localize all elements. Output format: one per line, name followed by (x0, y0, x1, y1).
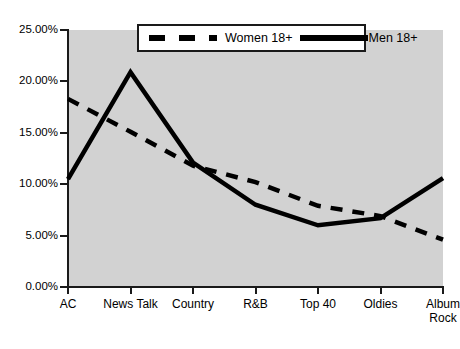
x-tick-mark (255, 287, 257, 294)
legend-label-men: Men 18+ (369, 32, 418, 45)
y-tick-label: 20.00% (2, 75, 58, 86)
legend-entry-women[interactable]: Women 18+ (139, 26, 293, 50)
y-tick-mark (60, 235, 68, 237)
y-tick-mark (60, 80, 68, 82)
y-tick-mark (60, 132, 68, 134)
legend: Women 18+ Men 18+ (137, 24, 366, 52)
y-tick-mark (60, 29, 68, 31)
x-tick-label: Album Rock (426, 297, 460, 325)
x-tick-label: Country (172, 297, 214, 311)
y-axis-line (67, 29, 69, 288)
y-tick-label: 5.00% (2, 230, 58, 241)
x-tick-mark (67, 287, 69, 294)
x-tick-mark (442, 287, 444, 294)
legend-swatch-solid-icon (299, 34, 369, 42)
x-tick-label: AC (60, 297, 77, 311)
x-tick-mark (317, 287, 319, 294)
plot-area (68, 30, 443, 287)
y-tick-label: 10.00% (2, 178, 58, 189)
x-tick-mark (380, 287, 382, 294)
legend-label-women: Women 18+ (225, 32, 293, 45)
x-tick-label: Top 40 (300, 297, 336, 311)
x-tick-label: R&B (243, 297, 268, 311)
x-tick-label: News Talk (103, 297, 157, 311)
y-tick-label: 15.00% (2, 127, 58, 138)
y-tick-label: 0.00% (2, 281, 58, 292)
legend-swatch-dashed-icon (148, 34, 218, 42)
legend-entry-men[interactable]: Men 18+ (293, 26, 418, 50)
x-tick-mark (192, 287, 194, 294)
y-tick-label: 25.00% (2, 24, 58, 35)
x-tick-label: Oldies (363, 297, 397, 311)
y-tick-mark (60, 183, 68, 185)
x-tick-mark (130, 287, 132, 294)
y-axis-labels: 25.00%20.00%15.00%10.00%5.00%0.00% (0, 0, 58, 349)
